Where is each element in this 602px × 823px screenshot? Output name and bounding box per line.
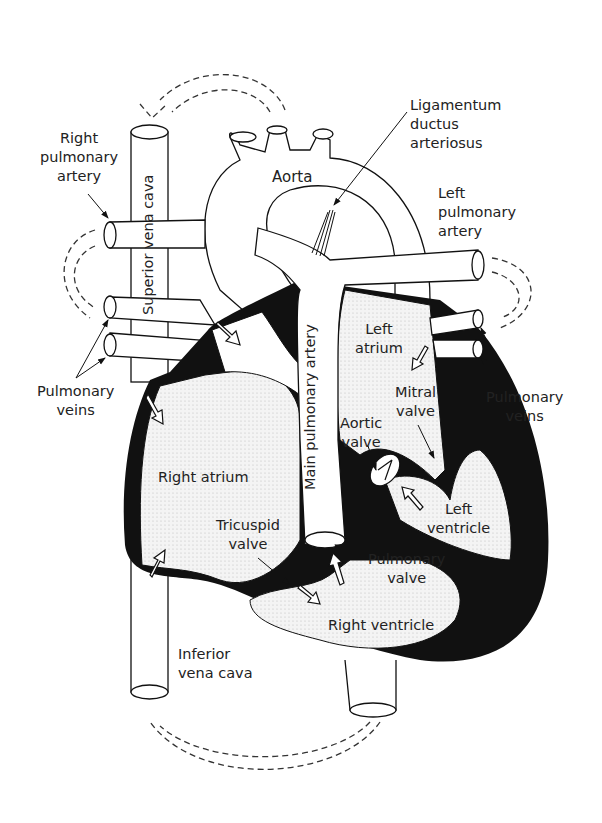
label-pulmonary-veins-right: Pulmonary veins: [486, 388, 563, 426]
label-aortic-valve: Aortic valve: [340, 414, 382, 452]
label-superior-vena-cava: Superior vena cava: [140, 175, 156, 315]
dashed-arrow-bottom-icon: [150, 722, 380, 769]
label-ligamentum-ductus-arteriosus: Ligamentum ductus arteriosus: [410, 96, 501, 153]
label-inferior-vena-cava: Inferior vena cava: [178, 645, 253, 683]
dashed-arrow-top-icon: [160, 75, 285, 112]
label-left-ventricle: Left ventricle: [427, 500, 490, 538]
label-left-pulmonary-artery: Left pulmonary artery: [438, 184, 516, 241]
label-pulmonary-veins-left: Pulmonary veins: [37, 382, 114, 420]
label-right-atrium: Right atrium: [158, 468, 249, 487]
label-main-pulmonary-artery: Main pulmonary artery: [302, 324, 318, 490]
label-right-ventricle: Right ventricle: [328, 616, 434, 635]
dashed-arrow-left-icon: [64, 230, 95, 318]
label-aorta: Aorta: [272, 168, 312, 187]
label-left-atrium: Left atrium: [355, 320, 403, 358]
dashed-arrow-right-icon: [492, 258, 531, 328]
label-tricuspid-valve: Tricuspid valve: [216, 516, 280, 554]
label-pulmonary-valve: Pulmonary valve: [368, 550, 445, 588]
label-mitral-valve: Mitral valve: [395, 383, 436, 421]
label-right-pulmonary-artery: Right pulmonary artery: [40, 129, 118, 186]
